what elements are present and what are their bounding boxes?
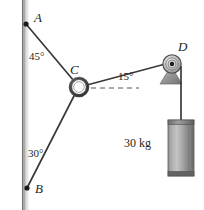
weight-label: 30 kg <box>124 136 151 150</box>
vertical-wall <box>22 0 29 210</box>
pulley-at-D <box>163 55 181 73</box>
label-point-c: C <box>70 62 79 77</box>
angle-label-45: 45° <box>29 50 44 62</box>
label-point-a: A <box>33 10 42 25</box>
point-marker-a <box>23 21 28 26</box>
collar-ring-at-C <box>70 78 87 95</box>
suspended-weight-block <box>168 120 194 176</box>
label-point-d: D <box>177 39 188 54</box>
point-marker-b <box>24 185 29 190</box>
label-point-b: B <box>35 181 43 196</box>
cable-bc <box>27 94 75 188</box>
angle-label-30: 30° <box>28 147 43 159</box>
statics-diagram-figure: A B C D 45° 30° 15° 30 kg <box>0 0 204 210</box>
diagram-canvas: A B C D 45° 30° 15° 30 kg <box>0 0 204 210</box>
angle-label-15: 15° <box>118 70 133 82</box>
